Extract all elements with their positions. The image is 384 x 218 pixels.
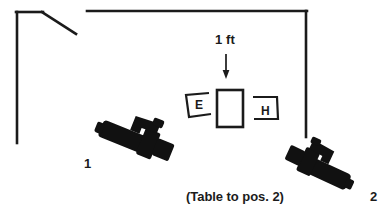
- dimension-label: 1 ft: [215, 33, 235, 46]
- wall-diagonal: [42, 12, 76, 34]
- box-e-label: E: [195, 99, 203, 111]
- diagram-canvas: 1 ft E H 1 2 (Table to pos. 2): [0, 0, 384, 218]
- floor-plan-svg: [0, 0, 384, 218]
- camera-silhouette-1: [92, 98, 182, 166]
- table-rectangle: [217, 90, 243, 127]
- camera-1-label: 1: [84, 157, 91, 170]
- camera-2-label: 2: [370, 190, 377, 203]
- dimension-arrow-down: [223, 54, 230, 79]
- camera-silhouette-2: [282, 129, 364, 194]
- box-h-label: H: [261, 105, 270, 117]
- table-position-caption: (Table to pos. 2): [186, 190, 284, 203]
